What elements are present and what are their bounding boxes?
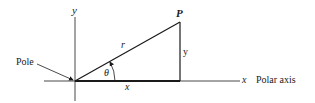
pole-pointer-arrow	[37, 64, 73, 80]
angle-theta-arc	[110, 62, 115, 81]
point-p-label: P	[176, 8, 183, 19]
opposite-side-y-label: y	[183, 47, 188, 57]
radius-r-label: r	[121, 40, 125, 50]
angle-theta-label: θ	[104, 68, 109, 78]
y-axis-label: y	[72, 5, 77, 16]
radius-r-line	[75, 22, 180, 81]
polar-coordinates-diagram: y P r y θ x Pole x Polar axis	[0, 0, 315, 103]
pole-label: Pole	[16, 57, 34, 67]
x-axis-label: x	[242, 75, 246, 85]
adjacent-side-x-label: x	[125, 82, 129, 92]
diagram-graphics	[0, 0, 315, 103]
polar-axis-label: Polar axis	[256, 75, 296, 85]
